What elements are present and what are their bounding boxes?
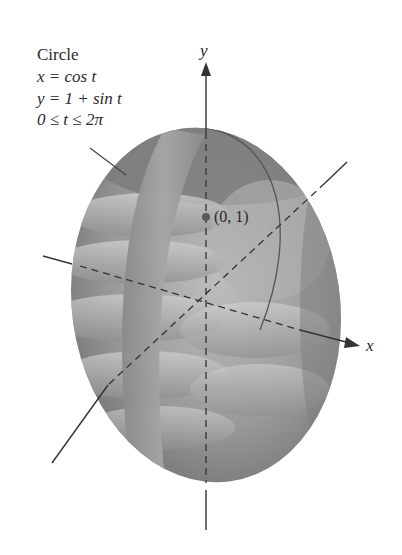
x-axis-solid-left xyxy=(43,256,72,264)
y-axis-arrow-icon xyxy=(201,62,211,76)
annotation-x-equation: x = cos t xyxy=(37,68,96,85)
torus-body xyxy=(45,95,365,500)
annotation-y-equation: y = 1 + sin t xyxy=(37,90,122,107)
point-label: (0, 1) xyxy=(214,209,249,225)
z-axis-solid-top xyxy=(325,162,347,183)
x-axis-label: x xyxy=(366,337,374,354)
point-marker xyxy=(202,213,210,221)
annotation-title: Circle xyxy=(37,46,79,63)
annotation-t-range: 0 ≤ t ≤ 2π xyxy=(37,111,103,128)
z-axis-solid-bottom xyxy=(52,385,108,463)
x-axis-arrow-icon xyxy=(344,337,360,348)
y-axis-label: y xyxy=(200,42,208,59)
